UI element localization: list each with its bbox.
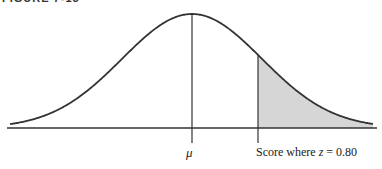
figure-caption: FIGURE 7-15 [2,0,80,4]
upper-tail-shaded-area [258,55,373,128]
normal-curve-plot [0,0,382,169]
z-score-label-suffix: = 0.80 [323,145,357,159]
z-score-label-prefix: Score where [256,145,319,159]
normal-curve-figure: FIGURE 7-15 μ Score where z = 0.80 [0,0,382,169]
z-score-label: Score where z = 0.80 [256,145,357,160]
mean-label: μ [186,145,193,161]
